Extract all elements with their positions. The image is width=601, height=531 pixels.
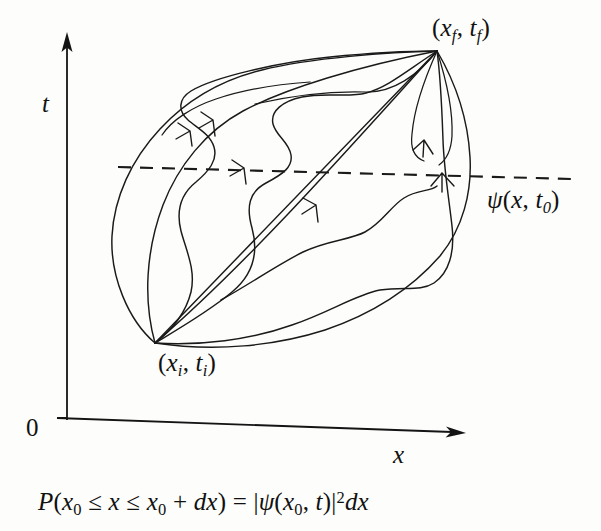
path-bundle-group <box>112 51 470 347</box>
caption-x0-sub: 0 <box>73 500 81 519</box>
psi-var-t-subscript: 0 <box>543 198 551 217</box>
psi-symbol: ψ <box>487 186 503 213</box>
caption-exponent: 2 <box>336 488 344 507</box>
psi-var-t: t <box>535 186 542 213</box>
caption-x0-var-b: x <box>147 488 158 515</box>
caption-inner-sep: , <box>303 488 316 515</box>
caption-formula: P(x0 ≤ x ≤ x0 + dx) = |ψ(x0, t)|2dx <box>38 488 369 520</box>
psi-paren-open: ( <box>503 186 512 213</box>
caption-x0-var: x <box>62 488 73 515</box>
caption-inner-x: x <box>283 488 294 515</box>
caption-inner-x-sub: 0 <box>294 500 302 519</box>
caption-p-symbol: P <box>38 488 53 515</box>
equal-time-slice-dashed-line <box>118 167 572 179</box>
arrow-tick-slice-center <box>230 160 246 184</box>
path-integral-diagram <box>0 0 601 531</box>
path-upper-envelope <box>148 51 437 343</box>
initial-paren-close: ) <box>207 349 216 376</box>
figure-root: (xf, tf) (xi, ti) ψ(x, t0) t x 0 P(x0 ≤ … <box>0 0 601 531</box>
caption-inner-paren-close: ) <box>323 488 332 515</box>
caption-x-var: x <box>109 488 120 515</box>
final-paren-open: ( <box>432 14 441 41</box>
caption-inner-paren-open: ( <box>274 488 283 515</box>
caption-psi-symbol: ψ <box>259 488 275 515</box>
final-x-symbol: x <box>441 14 452 41</box>
x-axis-line <box>57 418 452 432</box>
caption-dx-1: dx <box>194 488 218 515</box>
label-initial-event: (xi, ti) <box>158 349 216 381</box>
origin-label: 0 <box>26 414 39 442</box>
axes-group <box>57 32 466 438</box>
x-axis-label: x <box>393 441 404 469</box>
label-final-event: (xf, tf) <box>432 14 490 46</box>
caption-dx-2: dx <box>345 488 369 515</box>
caption-paren-open: ( <box>53 488 62 515</box>
final-paren-close: ) <box>481 14 490 41</box>
final-separator: , <box>457 14 470 41</box>
caption-paren-close: ) <box>218 488 227 515</box>
caption-le-2: ≤ <box>120 488 147 515</box>
caption-equals: = <box>226 488 253 515</box>
caption-plus: + <box>166 488 193 515</box>
initial-t-symbol: t <box>196 349 203 376</box>
label-wavefunction-slice: ψ(x, t0) <box>487 186 560 218</box>
path-straight-chord <box>155 51 437 343</box>
initial-paren-open: ( <box>158 349 167 376</box>
path-inner-upper <box>255 51 437 104</box>
psi-separator: , <box>523 186 536 213</box>
caption-inner-t: t <box>316 488 323 515</box>
initial-x-symbol: x <box>167 349 178 376</box>
psi-var-x: x <box>511 186 522 213</box>
path-wiggly-mid-bulge <box>221 186 437 300</box>
path-outer-left <box>112 51 437 343</box>
t-axis-label: t <box>42 90 49 118</box>
arrow-tick-upper-left-a <box>176 123 192 146</box>
arrow-tick-chord-mid <box>302 198 318 222</box>
caption-le-1: ≤ <box>82 488 109 515</box>
psi-paren-close: ) <box>551 186 560 213</box>
initial-separator: , <box>183 349 196 376</box>
final-t-symbol: t <box>470 14 477 41</box>
